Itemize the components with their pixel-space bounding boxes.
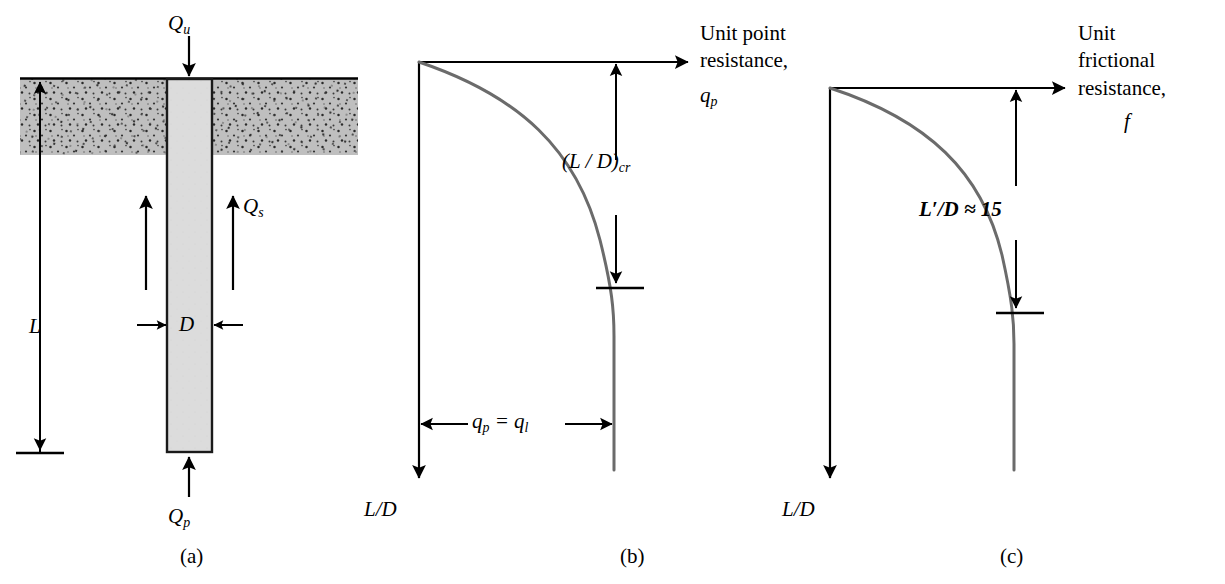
panel-c-critical-depth-label: L′/D ≈ 15 bbox=[919, 196, 1002, 223]
figure-container: Qu Qs L D Qp (a) Unit point resistance, … bbox=[0, 0, 1225, 584]
panel-b-critical-ratio-label: (L / D)cr bbox=[562, 148, 630, 177]
pile-body bbox=[167, 79, 212, 452]
panel-b-x-axis-label: Unit point resistance, bbox=[700, 20, 788, 75]
panel-b-limit-label: qp = ql bbox=[472, 408, 528, 437]
panel-c-critical-depth-dimension bbox=[996, 90, 1044, 313]
panel-c-x-axis-label: Unit frictional resistance, bbox=[1078, 20, 1166, 102]
label-qs: Qs bbox=[243, 193, 264, 222]
panel-c-x-axis-symbol: f bbox=[1124, 108, 1130, 135]
label-D: D bbox=[179, 311, 194, 338]
panel-a-graphics bbox=[16, 36, 358, 497]
label-qp: Qp bbox=[168, 503, 190, 532]
panel-c-curve bbox=[830, 88, 1014, 470]
figure-graphics bbox=[0, 0, 1225, 584]
caption-b: (b) bbox=[620, 544, 645, 569]
label-qu: Qu bbox=[168, 10, 190, 39]
panel-c-y-axis-label: L/D bbox=[782, 496, 815, 523]
panel-b-graphics bbox=[418, 62, 688, 478]
panel-b-x-axis-symbol: qp bbox=[700, 82, 717, 111]
panel-c-graphics bbox=[829, 88, 1065, 478]
panel-b-y-axis-label: L/D bbox=[364, 496, 397, 523]
caption-a: (a) bbox=[180, 544, 203, 569]
label-L: L bbox=[29, 313, 41, 340]
caption-c: (c) bbox=[1000, 544, 1023, 569]
